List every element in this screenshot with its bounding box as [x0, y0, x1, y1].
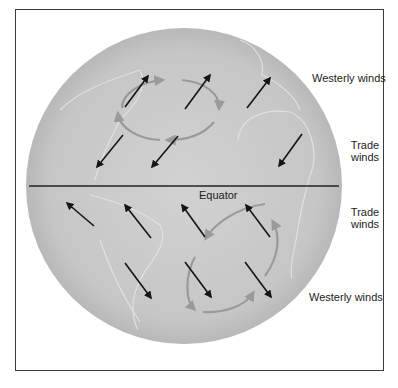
label-westerly-winds-south: Westerly winds [309, 291, 383, 303]
label-trade-winds-south-line2: winds [345, 218, 385, 230]
label-trade-winds-north-line2: winds [345, 151, 385, 163]
label-equator: Equator [199, 189, 238, 201]
label-trade-winds-south-line1: Trade [345, 206, 385, 218]
label-trade-winds-south: Trade winds [345, 206, 385, 230]
label-trade-winds-north: Trade winds [345, 139, 385, 163]
label-westerly-winds-north: Westerly winds [312, 72, 386, 84]
label-trade-winds-north-line1: Trade [345, 139, 385, 151]
